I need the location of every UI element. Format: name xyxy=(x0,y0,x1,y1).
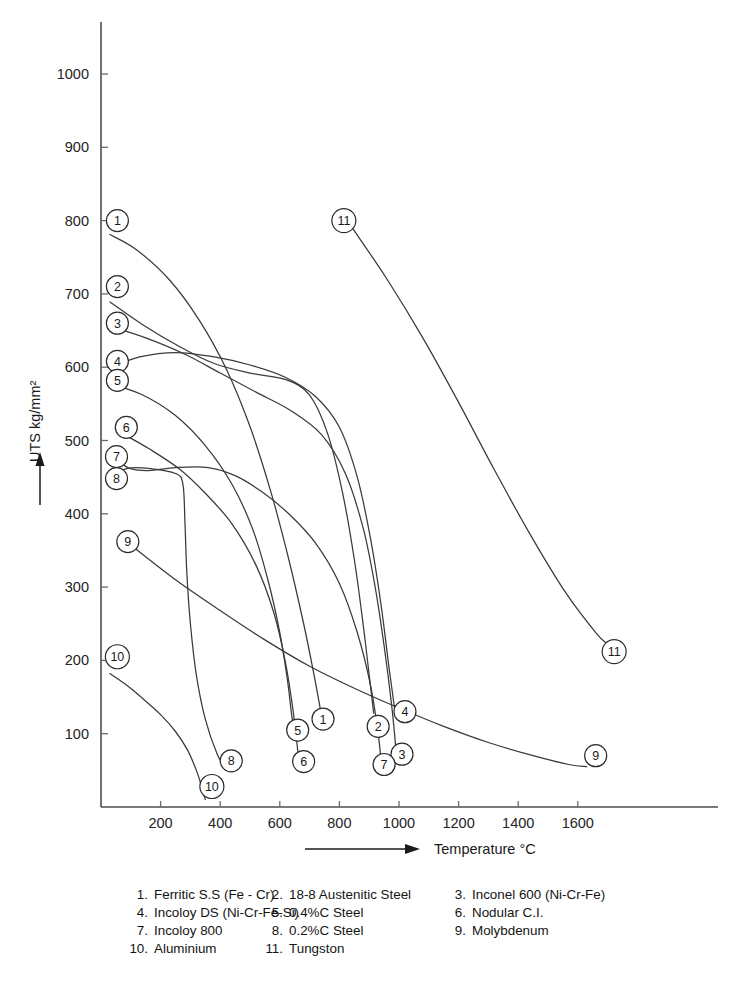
callout-label-1: 1 xyxy=(114,214,121,228)
legend-label-5: 0.4%C Steel xyxy=(289,905,363,920)
legend-number-5: 5. xyxy=(272,905,283,920)
callout-start-11: 11 xyxy=(332,209,356,233)
legend-number-6: 6. xyxy=(455,905,466,920)
y-tick-label-800: 800 xyxy=(65,213,89,229)
callout-label-5: 5 xyxy=(294,724,301,738)
callout-label-1: 1 xyxy=(320,713,327,727)
callout-end-2: 2 xyxy=(367,715,389,737)
legend-number-11: 11. xyxy=(265,941,283,956)
callout-label-3: 3 xyxy=(114,317,121,331)
legend-number-8: 8. xyxy=(272,923,283,938)
callout-start-1: 1 xyxy=(106,210,128,232)
callout-label-4: 4 xyxy=(114,355,121,369)
callout-start-6: 6 xyxy=(115,416,137,438)
x-axis-title: Temperature °C xyxy=(434,841,536,857)
y-tick-label-500: 500 xyxy=(65,433,89,449)
y-tick-label-700: 700 xyxy=(65,286,89,302)
y-axis-title: UTS kg/mm² xyxy=(27,380,43,462)
x-tick-label-1600: 1600 xyxy=(562,815,594,831)
callout-end-6: 6 xyxy=(293,751,315,773)
callout-end-4: 4 xyxy=(394,701,416,723)
chart-background xyxy=(0,0,755,982)
callout-end-5: 5 xyxy=(287,719,309,741)
legend-label-3: Inconel 600 (Ni-Cr-Fe) xyxy=(472,887,605,902)
callout-label-3: 3 xyxy=(399,748,406,762)
x-tick-label-1400: 1400 xyxy=(502,815,534,831)
legend-label-8: 0.2%C Steel xyxy=(289,923,363,938)
callout-label-11: 11 xyxy=(608,645,621,659)
callout-label-2: 2 xyxy=(114,280,121,294)
legend-label-9: Molybdenum xyxy=(472,923,549,938)
callout-start-2: 2 xyxy=(106,276,128,298)
legend-number-2: 2. xyxy=(272,887,283,902)
y-tick-label-300: 300 xyxy=(65,579,89,595)
callout-start-7: 7 xyxy=(106,446,128,468)
callout-end-11: 11 xyxy=(602,640,626,664)
legend-number-7: 7. xyxy=(137,923,148,938)
callout-label-6: 6 xyxy=(300,755,307,769)
callout-end-8: 8 xyxy=(220,750,242,772)
y-tick-label-1000: 1000 xyxy=(57,66,89,82)
x-tick-label-1200: 1200 xyxy=(442,815,474,831)
y-tick-label-600: 600 xyxy=(65,359,89,375)
y-tick-label-900: 900 xyxy=(65,139,89,155)
callout-label-10: 10 xyxy=(205,780,219,794)
y-tick-label-200: 200 xyxy=(65,652,89,668)
callout-label-2: 2 xyxy=(375,720,382,734)
callout-start-8: 8 xyxy=(106,468,128,490)
callout-label-8: 8 xyxy=(228,754,235,768)
legend-number-10: 10. xyxy=(129,941,148,956)
callout-end-9: 9 xyxy=(585,745,607,767)
callout-end-10: 10 xyxy=(200,774,224,798)
callout-label-5: 5 xyxy=(114,374,121,388)
callout-start-5: 5 xyxy=(106,369,128,391)
callout-end-7: 7 xyxy=(373,753,395,775)
x-tick-label-200: 200 xyxy=(148,815,172,831)
callout-label-6: 6 xyxy=(123,421,130,435)
legend-number-4: 4. xyxy=(137,905,148,920)
legend-number-1: 1. xyxy=(137,887,148,902)
callout-start-9: 9 xyxy=(117,531,139,553)
y-tick-label-400: 400 xyxy=(65,506,89,522)
x-tick-label-400: 400 xyxy=(208,815,232,831)
legend-number-3: 3. xyxy=(455,887,466,902)
legend-label-7: Incoloy 800 xyxy=(154,923,223,938)
legend-number-9: 9. xyxy=(455,923,466,938)
x-tick-label-600: 600 xyxy=(268,815,292,831)
x-tick-label-1000: 1000 xyxy=(383,815,415,831)
legend-label-6: Nodular C.I. xyxy=(472,905,543,920)
callout-start-3: 3 xyxy=(106,312,128,334)
callout-label-9: 9 xyxy=(124,535,131,549)
callout-label-10: 10 xyxy=(110,650,124,664)
legend-label-11: Tungston xyxy=(289,941,344,956)
callout-start-10: 10 xyxy=(105,645,129,669)
legend-label-10: Aluminium xyxy=(154,941,217,956)
legend-label-2: 18-8 Austenitic Steel xyxy=(289,887,411,902)
y-tick-label-100: 100 xyxy=(65,726,89,742)
callout-label-4: 4 xyxy=(401,705,408,719)
x-tick-label-800: 800 xyxy=(327,815,351,831)
callout-label-11: 11 xyxy=(337,214,350,228)
uts-vs-temperature-chart: 2004006008001000120014001600 10020030040… xyxy=(0,0,755,982)
callout-end-1: 1 xyxy=(312,708,334,730)
legend-label-1: Ferritic S.S (Fe - Cr) xyxy=(154,887,275,902)
callout-label-7: 7 xyxy=(381,758,388,772)
callout-label-9: 9 xyxy=(592,749,599,763)
callout-label-7: 7 xyxy=(113,450,120,464)
callout-label-8: 8 xyxy=(113,472,120,486)
